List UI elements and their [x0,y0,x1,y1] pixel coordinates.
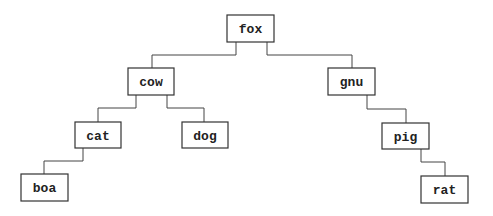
node-label: dog [193,129,217,144]
node-label: rat [433,183,456,198]
node-label: cow [139,75,163,90]
node-fox: fox [227,15,274,42]
edge-fox-cow [152,42,236,68]
edge-pig-rat [421,149,445,176]
edge-cat-boa [44,148,83,174]
node-label: cat [86,129,109,144]
node-rat: rat [421,176,468,203]
node-cow: cow [128,68,174,95]
node-label: fox [239,22,263,37]
node-pig: pig [382,123,429,149]
edge-cow-dog [167,95,204,122]
node-gnu: gnu [328,68,375,95]
edge-fox-gnu [267,42,352,68]
edge-gnu-pig [367,95,406,123]
edge-cow-cat [98,95,136,122]
edges-layer [44,42,445,176]
node-cat: cat [75,122,121,148]
node-label: gnu [340,75,363,90]
node-dog: dog [182,122,228,148]
node-boa: boa [21,174,68,201]
node-label: pig [394,130,418,145]
tree-diagram: foxcowgnucatdogpigboarat [0,0,493,216]
node-label: boa [33,181,57,196]
